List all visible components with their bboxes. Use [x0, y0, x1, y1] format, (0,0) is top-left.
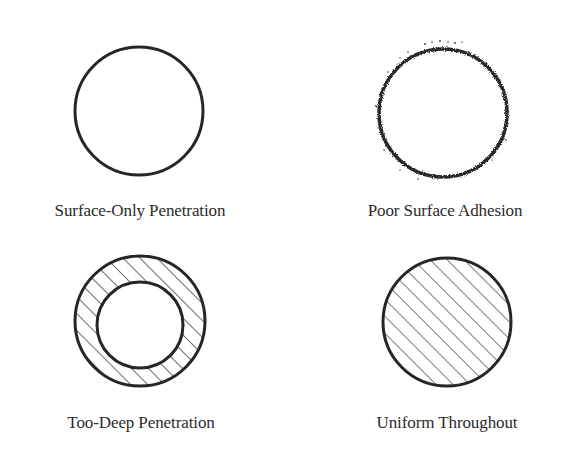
surface-only-label: Surface-Only Penetration — [55, 201, 226, 221]
too-deep-ring — [70, 250, 210, 390]
too-deep-label: Too-Deep Penetration — [67, 413, 214, 433]
diagram-canvas — [0, 0, 587, 464]
surface-only-circle — [75, 47, 203, 175]
uniform-label: Uniform Throughout — [377, 413, 518, 433]
uniform-circle — [383, 258, 511, 386]
poor-adhesion-label: Poor Surface Adhesion — [368, 201, 523, 221]
poor-adhesion-circle — [375, 40, 509, 180]
